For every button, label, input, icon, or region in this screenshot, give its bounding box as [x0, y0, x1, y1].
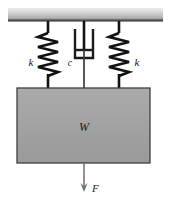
spring-right	[109, 21, 129, 90]
spring-mass-damper-diagram: W F k c k	[0, 0, 169, 207]
spring-left	[38, 21, 58, 90]
mass-label: W	[79, 120, 90, 134]
figure-canvas: W F k c k	[0, 0, 169, 207]
force-label: F	[91, 182, 99, 194]
mass-block: W	[17, 88, 150, 163]
damper-label: c	[68, 57, 73, 68]
spring-right-label: k	[135, 56, 141, 68]
ceiling-support	[8, 8, 163, 22]
force-arrow: F	[81, 163, 100, 194]
spring-right-coil	[109, 33, 129, 76]
spring-left-coil	[38, 33, 58, 76]
spring-left-label: k	[29, 56, 35, 68]
damper-dashpot	[75, 21, 93, 90]
